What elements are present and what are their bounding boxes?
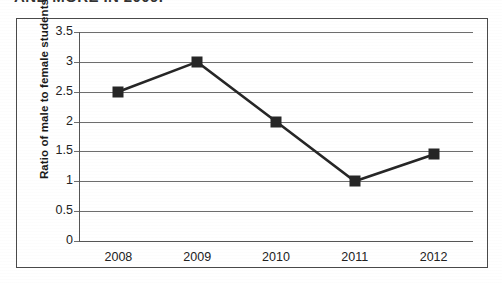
x-axis-tick-label: 2011 (320, 250, 390, 264)
x-axis-tick-label: 2008 (83, 250, 153, 264)
y-axis-tick-labels: 3.532.521.510.50 (27, 32, 73, 241)
chart-frame: Ratio of male to female students 3.532.5… (16, 18, 488, 268)
data-point-marker (271, 116, 282, 127)
data-point-marker (113, 86, 124, 97)
y-axis-tick-label: 1.5 (33, 143, 73, 157)
y-axis-tick-label: 0 (33, 233, 73, 247)
plot-area: 3.532.521.510.50 20082009201020112012 (79, 32, 473, 241)
y-axis-tick-label: 2.5 (33, 84, 73, 98)
y-axis-tick-label: 3 (33, 54, 73, 68)
data-point-marker (428, 149, 439, 160)
x-axis-tick-label: 2009 (162, 250, 232, 264)
x-axis-line (79, 241, 473, 242)
x-axis-tick-label: 2010 (241, 250, 311, 264)
y-axis-tick-label: 1 (33, 173, 73, 187)
cut-off-heading: AND MORE IN 2009. (14, 0, 314, 4)
y-axis-tick-label: 3.5 (33, 24, 73, 38)
y-axis-tick-label: 0.5 (33, 203, 73, 217)
data-point-marker (192, 56, 203, 67)
y-axis-tick-label: 2 (33, 114, 73, 128)
x-axis-tick-label: 2012 (399, 250, 469, 264)
series-line (79, 32, 473, 241)
data-point-marker (349, 176, 360, 187)
